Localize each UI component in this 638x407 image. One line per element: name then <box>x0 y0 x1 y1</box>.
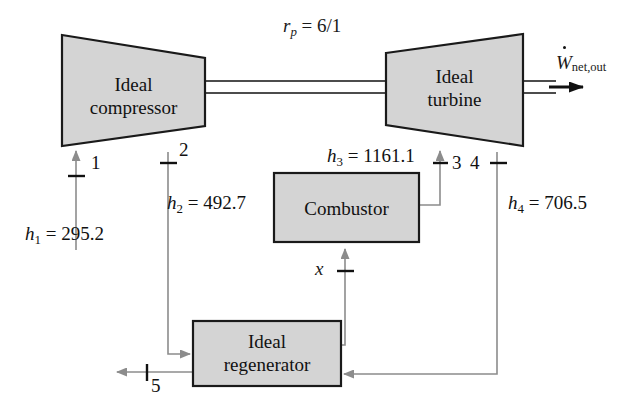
combustor-label: Combustor <box>274 197 419 220</box>
work-output-label: Wnet,out <box>556 52 606 75</box>
enthalpy-symbol-1: h <box>25 223 35 244</box>
pressure-ratio-subscript: p <box>290 24 296 39</box>
enthalpy-subscript-3: 3 <box>337 154 343 169</box>
enthalpy-subscript-2: 2 <box>177 201 183 216</box>
enthalpy-symbol-2: h <box>167 192 177 213</box>
regenerator-label: Ideal regenerator <box>193 330 341 376</box>
flow-line-3 <box>419 151 440 205</box>
enthalpy-label-3: h3 = 1161.1 <box>327 145 415 170</box>
state-number-3: 3 <box>452 152 462 174</box>
turbine-label-line1: Ideal <box>386 65 523 88</box>
enthalpy-value-2: 492.7 <box>203 192 246 213</box>
work-subscript: net,out <box>572 60 606 74</box>
work-symbol-wrapper: W <box>556 52 572 74</box>
enthalpy-subscript-1: 1 <box>35 232 41 247</box>
turbine-label-line2: turbine <box>386 88 523 111</box>
state-number-2: 2 <box>179 139 189 161</box>
state-number-5: 5 <box>151 375 161 397</box>
enthalpy-value-4: 706.5 <box>544 192 587 213</box>
compressor-label-line2: compressor <box>62 96 205 119</box>
pressure-ratio-label: rp = 6/1 <box>283 15 341 40</box>
enthalpy-label-4: h4 = 706.5 <box>508 192 587 217</box>
turbine-label: Ideal turbine <box>386 65 523 111</box>
enthalpy-symbol-3: h <box>327 145 337 166</box>
regenerator-label-line2: regenerator <box>193 353 341 376</box>
pressure-ratio-value: 6/1 <box>317 15 341 36</box>
enthalpy-symbol-4: h <box>508 192 518 213</box>
regenerator-label-line1: Ideal <box>193 330 341 353</box>
enthalpy-subscript-4: 4 <box>518 201 524 216</box>
enthalpy-label-1: h1 = 295.2 <box>25 223 104 248</box>
state-number-x: x <box>315 258 323 280</box>
compressor-label: Ideal compressor <box>62 73 205 119</box>
work-symbol: W <box>556 52 572 73</box>
flow-line-2 <box>168 152 190 354</box>
compressor-label-line1: Ideal <box>62 73 205 96</box>
enthalpy-value-1: 295.2 <box>61 223 104 244</box>
state-number-1: 1 <box>91 152 101 174</box>
state-number-4: 4 <box>470 152 480 174</box>
enthalpy-label-2: h2 = 492.7 <box>167 192 246 217</box>
brayton-cycle-diagram: Ideal compressor Ideal turbine Combustor… <box>0 0 638 407</box>
enthalpy-value-3: 1161.1 <box>363 145 415 166</box>
pressure-ratio-equals: = <box>302 15 313 36</box>
